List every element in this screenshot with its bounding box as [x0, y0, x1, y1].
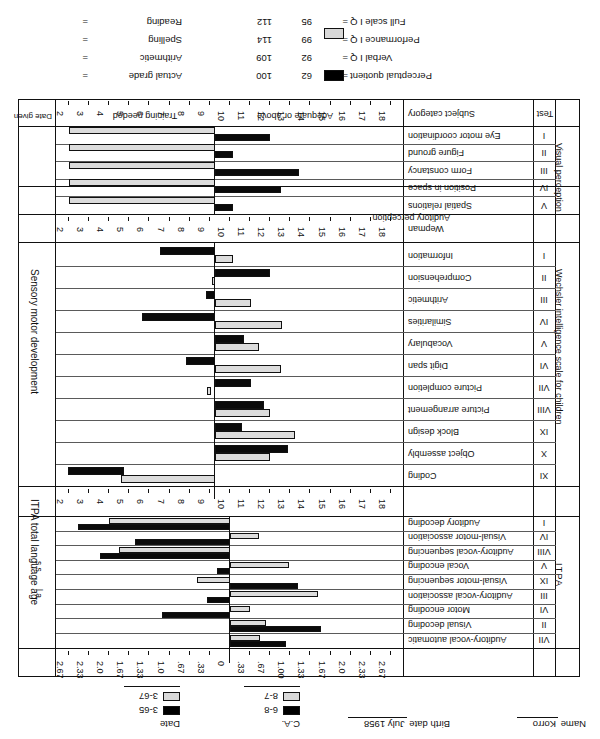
itpa-axis-tick-14 [108, 651, 109, 655]
itpa-axis-tick-6 [269, 651, 270, 655]
date-light-value: 3-67 [139, 691, 158, 702]
wisc-bar-light-vocab [215, 343, 259, 351]
itpa-bar-dark-3 [207, 597, 230, 603]
visual-axis-top-tick-9 [209, 217, 210, 221]
wisc-axis-top-ticklabel-1: 17 [357, 499, 367, 509]
vis-bar-dark-form [215, 169, 299, 176]
wisc-axis-top-tick-0 [390, 489, 391, 493]
visual-axis-top-ticklabel-10: 8 [176, 227, 186, 232]
visual-axis-top-ticklabel-14: 4 [95, 227, 105, 232]
vis-label-2: Form constancy [408, 166, 530, 176]
wisc-axis-top-tick-12 [149, 489, 150, 493]
legend-right-label-3: Reading [147, 17, 182, 28]
subject-category-header: Subject category [408, 109, 530, 119]
wisc-axis-top-ticklabel-16: 2 [55, 499, 65, 504]
itpa-rule-5 [56, 560, 556, 561]
wisc-axis-top-tick-2 [350, 489, 351, 493]
itpa-axis-tick-10 [189, 651, 190, 655]
itpa-axis-tick-16 [68, 651, 69, 655]
vis-bar-light-eyemotor [69, 127, 215, 134]
vis-numeral-1: II [536, 148, 552, 158]
wisc-numeral-6: VII [536, 383, 552, 393]
itpa-axis-ticklabel-11: 1.0 [156, 661, 166, 674]
wisc-bar-light-block [215, 431, 295, 439]
itpa-axis-ticklabel-1: 2.33 [357, 661, 367, 679]
vis-bar-light-figure [69, 144, 215, 151]
wisc-rule-4 [56, 376, 556, 377]
wisc-numeral-1: II [536, 273, 552, 283]
visual-axis-top-ticklabel-13: 5 [115, 227, 125, 232]
visual-axis-bottom-tick-14 [108, 101, 109, 105]
wisc-axis-top-ticklabel-12: 6 [136, 499, 146, 504]
visual-axis-top-ticklabel-3: 15 [317, 227, 327, 237]
wisc-axis-top-ticklabel-6: 12 [256, 499, 266, 509]
wisc-numeral-9: X [536, 449, 552, 459]
itpa-axis-tick-1 [370, 651, 371, 655]
birthdate-value: July 1958 [348, 717, 407, 730]
wisc-numeral-5: VI [536, 361, 552, 371]
wisc-numeral-8: IX [536, 427, 552, 437]
wisc-bar-dark-piccomp [215, 379, 251, 387]
wisc-bar-dark-simil [142, 313, 215, 321]
wisc-axis-top-tick-7 [249, 489, 250, 493]
wisc-bar-dark-picarr [215, 401, 264, 409]
vis-bar-dark-position [215, 186, 281, 193]
wisc-bar-dark-arith [206, 291, 215, 299]
itpa-axis-ticklabel-6: .67 [256, 661, 266, 674]
legend-right-eq-1: = [82, 53, 88, 64]
itpa-rule-1 [56, 618, 556, 619]
visual-axis-top-ticklabel-0: 18 [377, 227, 387, 237]
visual-axis-top-tick-10 [189, 217, 190, 221]
ca-dark-swatch [283, 706, 300, 715]
itpa-axis-tick-7 [249, 651, 250, 655]
wisc-axis-top-tick-15 [88, 489, 89, 493]
band-label-adequate: Adequate or above [240, 110, 350, 121]
wisc-axis-top-tick-5 [289, 489, 290, 493]
visual-axis-bottom-tick-3 [330, 101, 331, 105]
legend-label-2: Performance I Q [350, 35, 470, 46]
wisc-label-4: Vocabulary [408, 339, 530, 349]
itpa-axis-ticklabel-0: 2.67 [377, 661, 387, 679]
name-value: Korro [517, 717, 558, 730]
legend-right-label-1: Arithmetic [140, 53, 182, 64]
itpa-numeral-5: V [536, 561, 552, 571]
wisc-axis-top-tick-16 [68, 489, 69, 493]
visual-axis-top-tick-3 [330, 217, 331, 221]
group-label-itpa: ITPA [554, 563, 564, 587]
wisc-axis-top-ticklabel-13: 5 [115, 499, 125, 504]
ca-underline [244, 686, 300, 687]
wisc-rule-8 [56, 288, 556, 289]
wisc-bar-light-compr [212, 277, 215, 285]
visual-axis-top-ticklabel-11: 7 [156, 227, 166, 232]
ca-label: C.A. [282, 719, 300, 730]
visual-axis-bottom-tick-0 [390, 101, 391, 105]
birthdate-field: Birth date July 1958 [348, 719, 450, 730]
ca-light-swatch [283, 692, 300, 701]
group-label-auditory: Auditory perception [372, 213, 450, 223]
visual-axis-top-tick-14 [108, 217, 109, 221]
visual-axis-top-tick-6 [269, 217, 270, 221]
legend-right-label-0: Actual grade [129, 71, 182, 82]
wisc-bar-light-arith [215, 299, 251, 307]
date-dark-swatch [163, 706, 180, 715]
wisc-axis-top-tick-8 [229, 489, 230, 493]
group-label-wisc: Wechsler intelligence scale for children [554, 269, 564, 424]
itpa-bar-dark-7 [135, 539, 230, 545]
visual-axis-top-tick-13 [128, 217, 129, 221]
visual-axis-bottom-tick-1 [370, 101, 371, 105]
wisc-rule-2 [56, 420, 556, 421]
itpa-axis-tick-0 [390, 651, 391, 655]
vis-label-3: Position in space [408, 183, 530, 193]
vis-label-0: Eye motor coordination [408, 131, 530, 141]
visual-axis-bottom-tick-7 [249, 101, 250, 105]
section-sep-wisc-aud [18, 242, 580, 243]
vis-numeral-4: V [536, 201, 552, 211]
itpa-axis-ticklabel-14: 2.0 [95, 661, 105, 674]
auditory-label-wepman: Wepman [408, 224, 530, 234]
itpa-bar-light-8 [109, 518, 230, 524]
wisc-axis-top-tick-11 [169, 489, 170, 493]
itpa-axis-tick-13 [128, 651, 129, 655]
visual-axis-top-ticklabel-5: 13 [276, 227, 286, 237]
itpa-bar-dark-4 [230, 583, 298, 589]
legend-label-0: Perceptual quotient [350, 71, 470, 82]
